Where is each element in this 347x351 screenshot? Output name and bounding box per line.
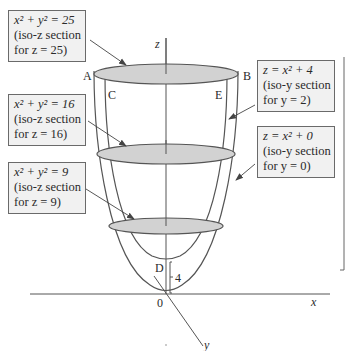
- callout-description: (iso-z section: [14, 112, 81, 127]
- callout-condition: for y = 0): [263, 159, 330, 174]
- origin-label: 0: [157, 297, 163, 309]
- z-axis-label: z: [155, 38, 160, 50]
- callout-description: (iso-z section: [14, 28, 81, 43]
- callout-condition: for z = 16): [14, 127, 81, 142]
- point-a-label: A: [83, 70, 92, 82]
- arrow-iso-y-0: [236, 164, 255, 180]
- callout-description: (iso-y section: [263, 78, 330, 93]
- callout-iso-y-0: z = x² + 0 (iso-y section for y = 0): [257, 126, 335, 178]
- point-d-label: D: [155, 262, 164, 274]
- callout-condition: for z = 25): [14, 43, 81, 58]
- arrow-iso-y-2: [229, 105, 255, 119]
- arrow-iso-z-25: [90, 40, 126, 65]
- callout-iso-z-25: x² + y² = 25 (iso-z section for z = 25): [8, 10, 86, 62]
- callout-iso-z-16: x² + y² = 16 (iso-z section for z = 16): [8, 94, 86, 146]
- stray-dot: [165, 344, 167, 346]
- point-e-label: E: [215, 89, 222, 101]
- offset-label: 4: [175, 272, 181, 284]
- callout-condition: for y = 2): [263, 93, 330, 108]
- callout-equation: z = x² + 0: [263, 129, 330, 144]
- callout-equation: z = x² + 4: [263, 63, 330, 78]
- point-b-label: B: [243, 70, 251, 82]
- callout-equation: x² + y² = 9: [14, 165, 81, 180]
- callout-iso-z-9: x² + y² = 9 (iso-z section for z = 9): [8, 162, 86, 214]
- y-axis-label: y: [204, 339, 209, 351]
- callout-condition: for z = 9): [14, 195, 81, 210]
- callout-iso-y-2: z = x² + 4 (iso-y section for y = 2): [257, 60, 335, 112]
- arrow-iso-z-9: [86, 189, 134, 219]
- callout-description: (iso-y section: [263, 144, 330, 159]
- x-axis-label: x: [311, 296, 316, 308]
- callout-equation: x² + y² = 16: [14, 97, 81, 112]
- callout-description: (iso-z section: [14, 180, 81, 195]
- callout-equation: x² + y² = 25: [14, 13, 81, 28]
- point-c-label: C: [108, 89, 116, 101]
